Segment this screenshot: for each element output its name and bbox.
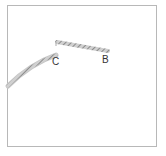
diagram-canvas (0, 0, 166, 156)
segment-c-b (57, 42, 108, 51)
label-b: B (102, 55, 109, 65)
curve-to-c (8, 55, 56, 86)
label-c: C (52, 57, 59, 67)
